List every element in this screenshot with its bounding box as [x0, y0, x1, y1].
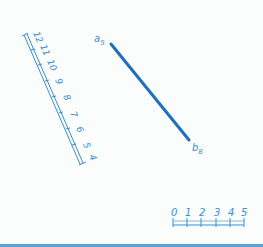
elev-label-12: 12 [31, 30, 45, 45]
elev-label-7: 7 [68, 110, 80, 119]
elev-label-11: 11 [38, 43, 52, 57]
hscale-label-3: 3 [214, 207, 220, 218]
elev-label-8: 8 [61, 93, 73, 102]
elev-label-4: 4 [87, 153, 99, 162]
hscale-label-2: 2 [199, 207, 205, 218]
hscale-label-4: 4 [228, 207, 234, 218]
elev-label-6: 6 [74, 125, 86, 134]
segment-a5-b8 [111, 44, 189, 140]
hscale-label-1: 1 [185, 207, 191, 218]
elev-label-9: 9 [53, 77, 65, 86]
hscale-label-5: 5 [241, 207, 247, 218]
diagram-canvas: a5 b8 12 11 10 9 8 7 6 5 4 [0, 0, 263, 247]
hscale-label-0: 0 [171, 207, 177, 218]
label-b8: b8 [192, 142, 203, 156]
horizontal-scale: 0 1 2 3 4 5 [171, 207, 247, 227]
elev-label-5: 5 [81, 141, 93, 150]
elevation-scale: 12 11 10 9 8 7 6 5 4 [22, 30, 99, 165]
label-a5: a5 [94, 33, 105, 47]
elev-label-10: 10 [45, 58, 59, 73]
